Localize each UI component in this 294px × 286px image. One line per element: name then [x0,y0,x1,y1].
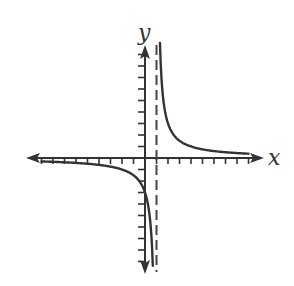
y-axis-label: y [137,20,151,45]
x-axis-label: x [268,145,281,170]
left-branch-curve [42,161,153,265]
right-branch-curve [160,43,249,154]
y-axis [138,45,150,274]
hyperbola-graph: y x [0,0,294,286]
